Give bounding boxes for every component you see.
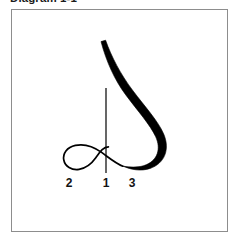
caption-clip-region: Diagram 1-1	[0, 0, 239, 6]
stroke-number-label-3: 3	[124, 176, 140, 190]
figure-caption-title: Diagram 1-1	[10, 0, 77, 4]
figure-frame-border	[11, 9, 228, 232]
stroke-number-label-2: 2	[61, 176, 77, 190]
figure-page: Diagram 1-1 2 1 3	[0, 0, 239, 244]
stroke-number-label-1: 1	[98, 176, 114, 190]
